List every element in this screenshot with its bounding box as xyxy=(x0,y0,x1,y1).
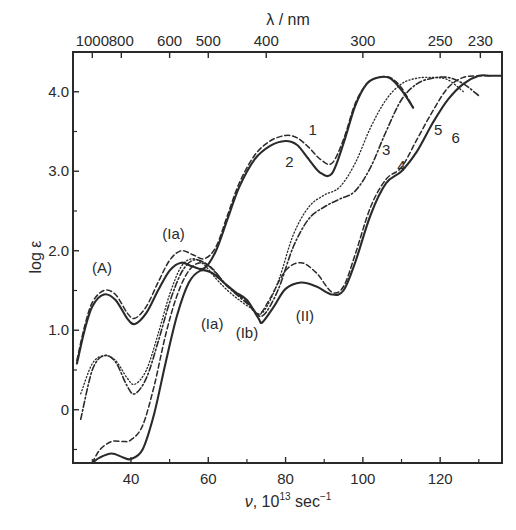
top-tick-label: 250 xyxy=(428,32,453,49)
curve-annotation: (Ia) xyxy=(201,315,224,332)
top-tick-label: 1000 xyxy=(76,32,109,49)
curve-annotation: (A) xyxy=(92,259,112,276)
curve-2 xyxy=(77,77,413,364)
top-tick-label: 300 xyxy=(350,32,375,49)
curve-3 xyxy=(81,77,464,394)
y-tick-label: 3.0 xyxy=(48,162,69,179)
y-axis-title: log ε xyxy=(27,241,44,274)
curve-annotation: 4 xyxy=(397,157,405,174)
y-tick-label: 4.0 xyxy=(48,83,69,100)
curve-annotations: (A)(Ia)(Ia)(Ib)(II)123456 xyxy=(92,121,460,341)
x-tick-label: 60 xyxy=(200,470,217,487)
top-tick-label: 800 xyxy=(109,32,134,49)
y-tick-label: 1.0 xyxy=(48,321,69,338)
top-tick-label: 400 xyxy=(254,32,279,49)
top-axis-title: λ / nm xyxy=(266,11,310,28)
curve-annotation: 1 xyxy=(308,121,316,138)
curve-4 xyxy=(81,77,479,419)
x-axis-title: ν, 1013 sec−1 xyxy=(245,491,332,510)
x-tick-label: 120 xyxy=(428,470,453,487)
y-tick-label: 0 xyxy=(61,401,69,418)
curve-annotation: (II) xyxy=(296,307,314,324)
curve-5 xyxy=(92,76,490,463)
axis-ticks: 4060801001204.03.02.01.00100080060050040… xyxy=(48,32,493,487)
x-tick-label: 80 xyxy=(277,470,294,487)
top-tick-label: 500 xyxy=(196,32,221,49)
curve-annotation: 6 xyxy=(451,129,459,146)
absorption-spectrum-chart: 4060801001204.03.02.01.00100080060050040… xyxy=(0,0,516,530)
top-tick-label: 600 xyxy=(157,32,182,49)
x-tick-label: 40 xyxy=(123,470,140,487)
y-tick-label: 2.0 xyxy=(48,242,69,259)
curve-annotation: 2 xyxy=(285,153,293,170)
curve-annotation: (Ia) xyxy=(162,225,185,242)
top-tick-label: 230 xyxy=(468,32,493,49)
x-tick-label: 100 xyxy=(350,470,375,487)
curve-annotation: 5 xyxy=(434,121,442,138)
curve-annotation: 3 xyxy=(382,141,390,158)
curve-annotation: (Ib) xyxy=(236,324,259,341)
